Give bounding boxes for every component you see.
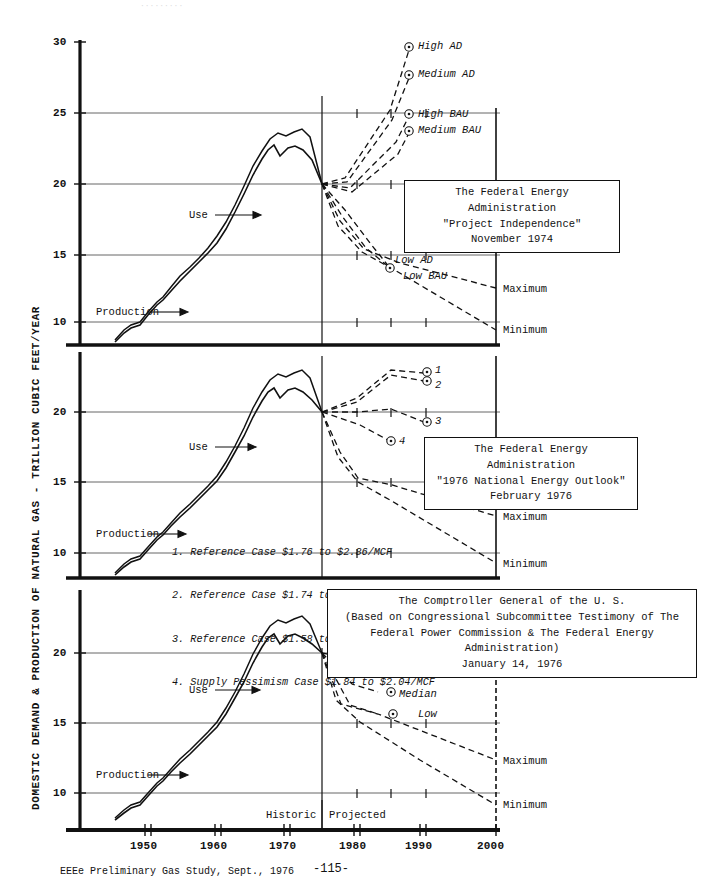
marker-label-low: Low bbox=[418, 708, 437, 720]
y-tick-bot-15: 15 bbox=[53, 717, 67, 729]
x-tick-2000: 2000 bbox=[477, 840, 504, 852]
panel-bottom-maximum-label: Maximum bbox=[503, 755, 547, 767]
x-tick-1960: 1960 bbox=[200, 840, 227, 852]
marker-label-low-ad: Low AD bbox=[395, 254, 433, 266]
y-tick-top-15: 15 bbox=[53, 249, 67, 261]
panel-bottom-minimum-label: Minimum bbox=[503, 799, 547, 811]
y-tick-mid-20: 20 bbox=[53, 406, 67, 418]
marker-label-case-4: 4 bbox=[399, 435, 405, 447]
panel-bottom-callout: The Comptroller General of the U. S. (Ba… bbox=[327, 589, 697, 678]
marker-label-case-2: 2 bbox=[435, 379, 441, 391]
x-tick-1980: 1980 bbox=[339, 840, 366, 852]
marker-label-high-ad: High AD bbox=[418, 40, 462, 52]
panel-middle-callout: The Federal Energy Administration "1976 … bbox=[424, 437, 638, 510]
callout-line-1: The Federal Energy Administration bbox=[412, 185, 612, 217]
y-tick-bot-20: 20 bbox=[53, 647, 67, 659]
callout-line-1: The Comptroller General of the U. S. bbox=[335, 594, 689, 610]
panel-top-pointers bbox=[148, 212, 261, 316]
footer-source: EEEe Preliminary Gas Study, Sept., 1976 bbox=[60, 866, 294, 877]
legend-item-4: 4. Supply Pessimism Case $1.84 to $2.04/… bbox=[172, 676, 435, 690]
callout-line-3: February 1976 bbox=[432, 489, 630, 505]
marker-label-medium-ad: Medium AD bbox=[418, 68, 475, 80]
y-tick-top-20: 20 bbox=[53, 178, 67, 190]
legend-item-1: 1. Reference Case $1.76 to $2.86/MCF bbox=[172, 546, 435, 560]
label-projected: Projected bbox=[329, 809, 386, 821]
y-tick-top-10: 10 bbox=[53, 316, 67, 328]
label-historic: Historic bbox=[266, 809, 316, 821]
panel-bottom-use-label: Use bbox=[189, 684, 208, 696]
y-tick-top-30: 30 bbox=[53, 36, 67, 48]
page-number: -115- bbox=[313, 862, 349, 876]
x-tick-1950: 1950 bbox=[130, 840, 157, 852]
panel-top-maximum-label: Maximum bbox=[503, 283, 547, 295]
callout-line-1: The Federal Energy Administration bbox=[432, 442, 630, 474]
panel-top-callout: The Federal Energy Administration "Proje… bbox=[404, 180, 620, 253]
y-tick-mid-15: 15 bbox=[53, 476, 67, 488]
figure-root: ········· DOMESTIC DEMAND & PRODUCTION O… bbox=[0, 0, 715, 896]
panel-middle-markers bbox=[387, 368, 431, 445]
marker-label-low-bau: Low BAU bbox=[403, 270, 447, 282]
panel-top-minimum-label: Minimum bbox=[503, 324, 547, 336]
marker-label-case-3: 3 bbox=[435, 415, 441, 427]
marker-label-high-bau: High BAU bbox=[418, 108, 468, 120]
panel-bottom-production-label: Production bbox=[96, 769, 159, 781]
y-tick-top-25: 25 bbox=[53, 107, 67, 119]
panel-top-production-label: Production bbox=[96, 306, 159, 318]
callout-line-4: January 14, 1976 bbox=[335, 657, 689, 673]
panel-middle-use-label: Use bbox=[189, 441, 208, 453]
callout-line-3: Federal Power Commission & The Federal E… bbox=[335, 626, 689, 658]
y-tick-mid-10: 10 bbox=[53, 547, 67, 559]
panel-middle-production-label: Production bbox=[96, 528, 159, 540]
marker-label-medium-bau: Medium BAU bbox=[418, 124, 481, 136]
panel-middle-maximum-label: Maximum bbox=[503, 511, 547, 523]
callout-line-2: (Based on Congressional Subcommittee Tes… bbox=[335, 610, 689, 626]
x-tick-1970: 1970 bbox=[269, 840, 296, 852]
callout-line-2: "1976 National Energy Outlook" bbox=[432, 474, 630, 490]
y-tick-bot-10: 10 bbox=[53, 787, 67, 799]
marker-label-median: Median bbox=[399, 688, 437, 700]
marker-label-case-1: 1 bbox=[435, 364, 441, 376]
callout-line-2: "Project Independence" bbox=[412, 217, 612, 233]
x-tick-1990: 1990 bbox=[405, 840, 432, 852]
panel-top-use-label: Use bbox=[189, 209, 208, 221]
callout-line-3: November 1974 bbox=[412, 232, 612, 248]
panel-middle-minimum-label: Minimum bbox=[503, 558, 547, 570]
